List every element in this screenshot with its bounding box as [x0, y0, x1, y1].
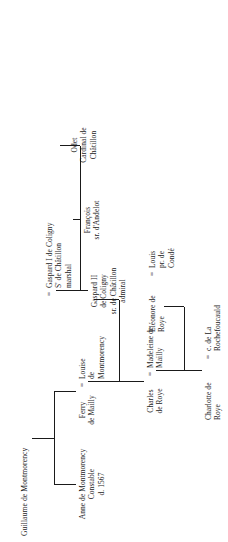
- node-odet-cardinal-de-chatillon: Odet Cardinal de Châtillon: [70, 104, 98, 186]
- node-line: Louise: [78, 321, 87, 379]
- marriage-symbol-charles-madeleine: =: [147, 372, 154, 376]
- node-line: sr. de Châtillon: [109, 246, 118, 336]
- node-line: c. de La: [204, 281, 213, 351]
- node-francois-sr-dandelot: François sr. d'Andelot: [83, 178, 102, 262]
- node-charles-de-roye: Charles de Roye: [146, 378, 165, 424]
- node-ferry-de-mailly: Ferry de Mailly: [78, 390, 97, 430]
- connector-to-eleonore: [164, 306, 184, 307]
- node-gaspard-i-de-coligny: Gaspard I de Coligny S' de Châtillon mar…: [45, 192, 73, 288]
- connector-to-anne: [54, 484, 76, 485]
- node-line: Condé: [167, 222, 176, 268]
- connector-to-charlotte: [184, 370, 202, 371]
- node-line: Eléonore de: [148, 274, 157, 332]
- marriage-symbol-gaspard1: =: [46, 292, 53, 296]
- connector-to-louise: [54, 391, 76, 392]
- node-line: S' de Châtillon: [54, 192, 63, 288]
- connector-charles-madeleine-stem: [156, 370, 184, 371]
- node-eleonore-de-roye: Eléonore de Roye: [148, 274, 167, 332]
- node-line: Anne de Montmorency: [78, 436, 87, 532]
- node-line: marshal: [64, 192, 73, 288]
- marriage-equals: =: [78, 383, 87, 387]
- node-line: Châtillon: [89, 104, 98, 186]
- node-line: Gaspard I de Coligny: [45, 192, 54, 288]
- marriage-equals: =: [45, 292, 54, 296]
- node-line: de Roye: [155, 378, 164, 424]
- connector-to-madeleine: [119, 381, 144, 382]
- marriage-equals: =: [148, 272, 157, 276]
- node-line: de Mailly: [87, 390, 96, 430]
- node-line: Louis: [148, 222, 157, 268]
- node-line: Roye: [157, 274, 166, 332]
- node-line: Cardinal de: [79, 104, 88, 186]
- node-line: sr. d'Andelot: [92, 178, 101, 262]
- root-node-guillaume: Guillaume de Montmorency: [20, 448, 29, 536]
- node-line: Charlotte de: [204, 358, 213, 420]
- connector-gaspard1-stem: [56, 290, 80, 291]
- connector-charles-madeleine-bar: [184, 307, 185, 371]
- marriage-equals: =: [204, 355, 213, 359]
- node-line: admiral: [118, 246, 127, 336]
- node-line: d. 1567: [97, 436, 106, 532]
- node-line: Rochefoucauld: [213, 281, 222, 351]
- node-line: pr. de: [157, 222, 166, 268]
- node-line: Constable: [87, 436, 96, 532]
- node-line: François: [83, 178, 92, 262]
- node-line: Odet: [70, 104, 79, 186]
- genealogy-chart: Guillaume de Montmorency Anne de Montmor…: [0, 0, 228, 542]
- node-line: Roye: [213, 358, 222, 420]
- node-line: Ferry: [78, 390, 87, 430]
- marriage-symbol-eleonore-louis: =: [149, 272, 156, 276]
- node-louis-pr-de-conde: Louis pr. de Condé: [148, 222, 176, 268]
- node-line: Guillaume de Montmorency: [20, 448, 29, 536]
- marriage-equals: =: [146, 372, 155, 376]
- node-c-de-la-rochefoucauld: c. de La Rochefoucauld: [204, 281, 223, 351]
- connector-guillaume-sibling-bar: [54, 392, 55, 485]
- node-charlotte-de-roye: Charlotte de Roye: [204, 358, 223, 420]
- connector-to-gaspard2: [80, 290, 88, 291]
- marriage-symbol-charlotte-rochefoucauld: =: [205, 355, 212, 359]
- marriage-symbol-ferry-louise: =: [79, 383, 86, 387]
- connector-guillaume-stem: [32, 438, 54, 439]
- connector-to-francois: [73, 219, 80, 220]
- connector-ferry-louise-stem: [88, 381, 119, 382]
- node-anne-de-montmorency: Anne de Montmorency Constable d. 1567: [78, 436, 106, 532]
- node-line: Charles: [146, 378, 155, 424]
